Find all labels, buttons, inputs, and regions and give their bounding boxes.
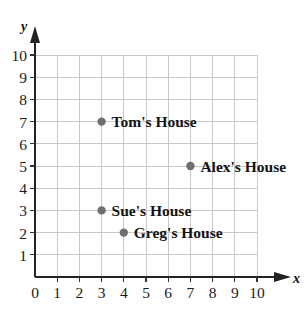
y-axis-tick-label: 3 — [19, 202, 27, 219]
x-axis-tick-labels: 012345678910 — [31, 284, 265, 301]
y-axis-tick-label: 8 — [19, 91, 27, 108]
y-axis-tick-label: 5 — [19, 158, 27, 175]
x-axis-tick-label: 3 — [98, 284, 106, 301]
x-axis-tick-label: 4 — [120, 284, 128, 301]
coordinate-plane-figure: 012345678910 12345678910 y x Tom's House… — [0, 0, 305, 315]
axis-lines — [30, 26, 291, 282]
x-axis-tick-label: 5 — [142, 284, 150, 301]
data-point-marker[interactable] — [120, 228, 128, 236]
data-point-label: Alex's House — [200, 158, 286, 175]
y-axis-tick-label: 1 — [19, 247, 27, 264]
x-axis-tick-label: 0 — [31, 284, 39, 301]
y-axis-tick-label: 2 — [19, 225, 27, 242]
data-point-marker[interactable] — [97, 117, 105, 125]
x-axis-tick-label: 10 — [249, 284, 265, 301]
x-axis-tick-label: 6 — [164, 284, 172, 301]
y-axis-tick-label: 7 — [19, 114, 27, 131]
y-axis-tick-label: 6 — [19, 136, 27, 153]
y-axis-tick-label: 9 — [19, 69, 27, 86]
data-point-label: Tom's House — [112, 113, 197, 130]
x-axis-arrow-icon — [274, 272, 291, 282]
data-point-label: Greg's House — [134, 224, 223, 241]
y-axis-tick-label: 4 — [19, 180, 27, 197]
coordinate-plane-svg: 012345678910 12345678910 y x Tom's House… — [0, 0, 305, 315]
x-axis-name-label: x — [292, 271, 300, 286]
y-axis-tick-label: 10 — [12, 47, 28, 64]
x-axis-tick-label: 7 — [187, 284, 195, 301]
x-axis-tick-label: 2 — [76, 284, 84, 301]
x-axis-tick-label: 9 — [231, 284, 239, 301]
data-points: Tom's HouseAlex's HouseSue's HouseGreg's… — [97, 113, 286, 241]
y-axis-arrow-icon — [30, 26, 40, 43]
x-axis-tick-label: 1 — [53, 284, 61, 301]
y-axis-name-label: y — [19, 19, 28, 34]
data-point-marker[interactable] — [97, 206, 105, 214]
y-axis-tick-labels: 12345678910 — [12, 47, 28, 264]
data-point-label: Sue's House — [112, 202, 192, 219]
x-axis-tick-label: 8 — [209, 284, 217, 301]
data-point-marker[interactable] — [186, 162, 194, 170]
